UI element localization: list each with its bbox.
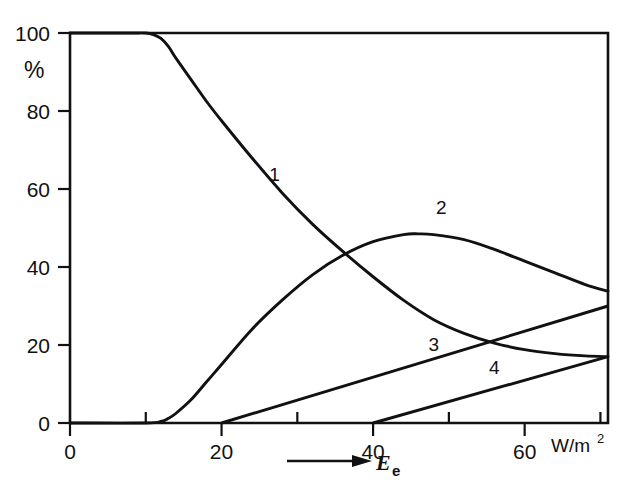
x-axis-units-exponent: 2: [597, 431, 604, 446]
y-axis-ticks: [58, 33, 70, 423]
y-tick-label: 20: [27, 334, 50, 357]
curve-label-1: 1: [269, 164, 280, 185]
y-tick-label: 80: [27, 100, 50, 123]
x-axis-variable-subscript: e: [392, 462, 400, 479]
plot-frame: [70, 33, 608, 423]
x-tick-label: 60: [513, 440, 536, 463]
chart-svg: 020406080100 0204060 1234 % E e W/m 2: [0, 0, 625, 497]
curve-label-2: 2: [436, 197, 447, 218]
x-axis-units-label: W/m: [551, 435, 590, 456]
curve-label-3: 3: [428, 334, 439, 355]
y-tick-label: 40: [27, 256, 50, 279]
chart-container: 020406080100 0204060 1234 % E e W/m 2: [0, 0, 625, 497]
curve-2: [70, 234, 608, 423]
y-tick-label: 100: [15, 22, 50, 45]
x-tick-label: 20: [210, 440, 233, 463]
curve-1: [70, 33, 608, 357]
y-axis-unit-label: %: [24, 57, 44, 83]
curve-label-4: 4: [489, 357, 500, 378]
curve-3: [222, 306, 608, 423]
y-axis-tick-labels: 020406080100: [15, 22, 50, 435]
x-axis-arrow: [287, 455, 372, 467]
curve-labels: 1234: [269, 164, 500, 378]
x-axis-variable-label: E: [375, 450, 391, 475]
x-axis-tick-labels: 0204060: [64, 440, 536, 463]
data-curves: [70, 33, 608, 423]
y-tick-label: 60: [27, 178, 50, 201]
x-tick-label: 0: [64, 440, 76, 463]
y-tick-label: 0: [38, 412, 50, 435]
